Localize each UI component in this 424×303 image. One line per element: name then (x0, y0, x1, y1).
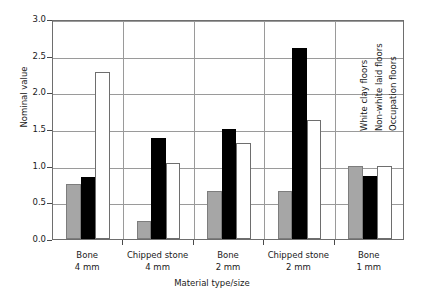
bar (66, 184, 81, 239)
category-label-line2: 1 mm (319, 261, 419, 273)
bar (236, 143, 251, 239)
x-axis-tick (193, 240, 194, 245)
series-annotation: Non-white laid floors (374, 43, 384, 131)
bar (137, 221, 152, 239)
category-label-line1: Bone (217, 250, 239, 260)
bar (292, 48, 307, 239)
x-axis-title: Material type/size (0, 278, 424, 288)
bar (81, 177, 96, 239)
category-separator (123, 21, 124, 239)
series-annotation: White clay floors (359, 60, 369, 131)
y-axis-tick-label: 0.0 (6, 235, 46, 244)
y-axis-tick (47, 240, 52, 241)
y-axis-tick-label: 1.5 (6, 125, 46, 134)
category-separator (194, 21, 195, 239)
bar (95, 72, 110, 239)
bar (278, 191, 293, 239)
bar (222, 129, 237, 239)
y-axis-tick-label: 2.0 (6, 88, 46, 97)
x-axis-tick (334, 240, 335, 245)
bar-chart: Nominal value 0.00.51.01.52.02.53.0 Whit… (0, 0, 424, 303)
plot-area: White clay floorsNon-white laid floorsOc… (52, 20, 404, 240)
category-label-line1: Bone (76, 250, 98, 260)
category-separator (335, 21, 336, 239)
x-axis-category-label: Bone1 mm (319, 249, 419, 273)
category-separator (264, 21, 265, 239)
y-axis-tick-label: 0.5 (6, 198, 46, 207)
bar (377, 166, 392, 239)
bar (363, 176, 378, 239)
y-axis-tick-label: 3.0 (6, 15, 46, 24)
gridline (53, 58, 403, 59)
bar (166, 163, 181, 239)
bar (151, 138, 166, 239)
gridline (53, 21, 403, 22)
y-axis-tick-label: 1.0 (6, 162, 46, 171)
category-label-line1: Bone (358, 250, 380, 260)
x-axis-tick (263, 240, 264, 245)
bar (207, 191, 222, 239)
y-axis-tick-label: 2.5 (6, 52, 46, 61)
bar (307, 120, 322, 239)
bar (348, 166, 363, 239)
x-axis-tick (122, 240, 123, 245)
